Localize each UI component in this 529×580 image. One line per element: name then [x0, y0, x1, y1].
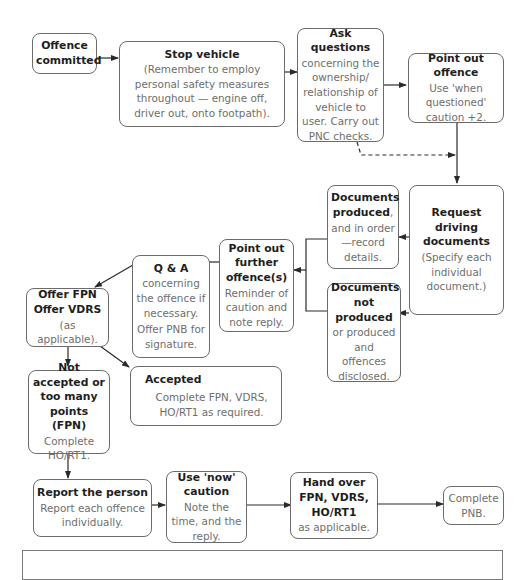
node-description: concerning the offence if necessary.: [136, 276, 206, 320]
node-documents-not-produced: Documents not produced or produced and o…: [327, 283, 401, 382]
node-ask-questions: Ask questions concerning the ownership/ …: [297, 28, 384, 142]
node-title: Offence committed: [36, 39, 93, 68]
node-hand-over: Hand over FPN, VDRS, HO/RT1 as applicabl…: [290, 472, 378, 539]
edge-docs-bracket: [306, 239, 327, 311]
node-description: as applicable.: [294, 520, 374, 535]
node-description: (as applicable).: [30, 318, 105, 347]
node-description: or produced and offences disclosed.: [331, 325, 397, 383]
node-title: Point out further offence(s): [223, 242, 290, 286]
node-title: Stop vehicle: [123, 48, 281, 63]
node-description: concerning the ownership/ relationship o…: [301, 56, 380, 144]
node-q-and-a: Q & A concerning the offence if necessar…: [132, 255, 210, 358]
node-description: and in order —record details.: [331, 221, 395, 265]
node-title: Hand over FPN, VDRS, HO/RT1: [294, 476, 374, 520]
node-description: Complete HO/RT1.: [32, 434, 106, 463]
node-title: Accepted: [145, 373, 278, 388]
node-use-now-caution: Use 'now' caution Note the time, and the…: [166, 471, 247, 543]
node-report-the-person: Report the person Report each offence in…: [33, 479, 152, 537]
node-title: Q & A: [136, 262, 206, 277]
node-description: Use 'when questioned' caution +2.: [412, 81, 500, 125]
node-title: Report the person: [37, 486, 148, 501]
node-description-secondary: Offer PNB for signature.: [136, 322, 206, 351]
node-request-driving-documents: Request driving documents (Specify each …: [409, 185, 504, 315]
node-point-out-offence: Point out offence Use 'when questioned' …: [408, 53, 504, 123]
node-description: Complete FPN, VDRS, HO/RT1 as required.: [145, 390, 278, 419]
notes-box: [22, 550, 503, 580]
node-documents-produced: Documents produced, and in order —record…: [327, 185, 399, 269]
node-title: Use 'now' caution: [170, 471, 243, 500]
node-description: (Remember to employ personal safety meas…: [123, 62, 281, 120]
node-stop-vehicle: Stop vehicle (Remember to employ persona…: [119, 41, 285, 127]
node-title: Point out offence: [412, 52, 500, 81]
node-title: Request driving documents: [413, 206, 500, 250]
node-description: Note the time, and the reply.: [170, 500, 243, 544]
node-title: Ask questions: [301, 27, 380, 56]
node-accepted: Accepted Complete FPN, VDRS, HO/RT1 as r…: [130, 366, 282, 426]
node-title: Documents not produced: [331, 281, 397, 325]
node-offence-committed: Offence committed: [32, 33, 97, 74]
node-title-suffix: ,: [390, 206, 393, 218]
node-description: Report each offence individually.: [37, 501, 148, 530]
node-not-accepted: Not accepted or too many points (FPN) Co…: [28, 370, 110, 454]
node-title-wrap: Documents produced,: [331, 190, 395, 221]
node-title: Offer FPN Offer VDRS: [30, 288, 105, 317]
edge-qa-to-offer: [95, 265, 133, 287]
node-title: Not accepted or too many points (FPN): [32, 361, 106, 434]
node-offer-fpn-vdrs: Offer FPN Offer VDRS (as applicable).: [26, 288, 109, 347]
node-point-out-further-offences: Point out further offence(s) Reminder of…: [219, 239, 294, 332]
edge-ask-to-request-dashed: [357, 142, 455, 155]
node-description: Reminder of caution and note reply.: [223, 286, 290, 330]
node-complete-pnb: Complete PNB.: [443, 486, 504, 525]
node-description: (Specify each individual document.): [413, 250, 500, 294]
node-description: Complete PNB.: [447, 491, 500, 520]
